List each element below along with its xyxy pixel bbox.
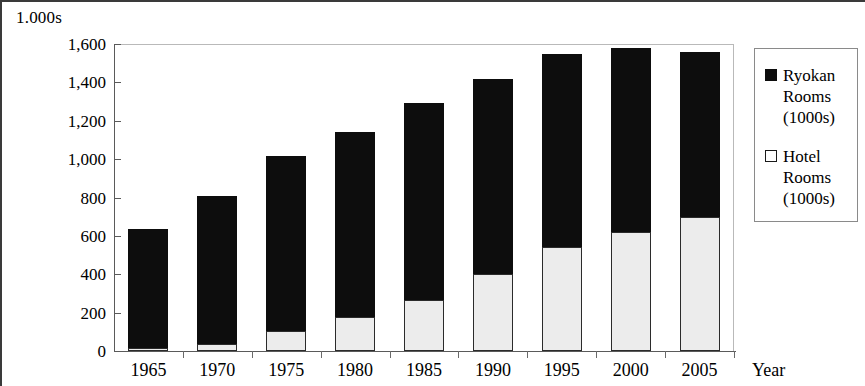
bar-stack	[542, 54, 582, 351]
legend-entry-label: Ryokan Rooms (1000s)	[783, 65, 857, 128]
y-axis-tick-mark	[114, 82, 121, 83]
y-axis-tick-labels: 02004006008001,0001,2001,4001,600	[2, 2, 106, 386]
bar-segment-ryokan-rooms	[680, 52, 720, 217]
bar-stack	[473, 79, 513, 351]
y-axis-tick-mark	[114, 121, 121, 122]
bar-stack	[611, 48, 651, 351]
x-axis-tick-label: 1970	[183, 360, 252, 380]
y-axis-tick-mark	[114, 236, 121, 237]
x-axis-tick-label: 1975	[252, 360, 321, 380]
chart-legend: Ryokan Rooms (1000s)Hotel Rooms (1000s)	[754, 48, 858, 222]
legend-entry: Ryokan Rooms (1000s)	[765, 65, 857, 128]
bar-segment-hotel-rooms	[197, 344, 237, 351]
y-axis-tick-label: 400	[14, 266, 106, 283]
x-axis-tick-label: 2000	[596, 360, 665, 380]
bar-segment-ryokan-rooms	[542, 54, 582, 248]
y-axis-tick-label: 1,000	[14, 151, 106, 168]
bar-segment-ryokan-rooms	[404, 103, 444, 300]
y-axis-tick-label: 1,400	[14, 74, 106, 91]
y-axis-tick-label: 1,600	[14, 36, 106, 53]
chart-figure: 1.000s 02004006008001,0001,2001,4001,600…	[0, 0, 865, 386]
bar-segment-ryokan-rooms	[128, 229, 168, 348]
x-axis-tick-mark	[596, 351, 597, 358]
x-axis-tick-mark	[321, 351, 322, 358]
x-axis-tick-mark	[665, 351, 666, 358]
bar-segment-ryokan-rooms	[335, 132, 375, 317]
bar-stack	[266, 156, 306, 351]
x-axis-title: Year	[752, 360, 785, 380]
bar-stack	[404, 103, 444, 351]
bar-stack	[335, 132, 375, 351]
x-axis-tick-label: 1980	[321, 360, 390, 380]
x-axis-tick-label: 1965	[114, 360, 183, 380]
x-axis-tick-label: 1990	[458, 360, 527, 380]
x-axis-tick-mark	[183, 351, 184, 358]
bar-segment-hotel-rooms	[266, 331, 306, 351]
y-axis-tick-mark	[114, 44, 121, 45]
bar-segment-hotel-rooms	[680, 217, 720, 351]
x-axis-tick-label: 1995	[527, 360, 596, 380]
bar-segment-hotel-rooms	[404, 300, 444, 351]
y-axis-tick-label: 600	[14, 228, 106, 245]
bar-stack	[680, 52, 720, 351]
bar-segment-ryokan-rooms	[611, 48, 651, 232]
y-axis-tick-label: 1,200	[14, 113, 106, 130]
y-axis-tick-mark	[114, 313, 121, 314]
x-axis-tick-mark	[527, 351, 528, 358]
bar-segment-hotel-rooms	[335, 317, 375, 351]
bar-stack	[128, 229, 168, 351]
y-axis-tick-label: 800	[14, 190, 106, 207]
x-axis-tick-mark	[252, 351, 253, 358]
bar-segment-hotel-rooms	[473, 274, 513, 351]
x-axis-baseline	[114, 351, 736, 352]
legend-entry-label: Hotel Rooms (1000s)	[783, 146, 857, 209]
bar-segment-hotel-rooms	[542, 247, 582, 351]
open-square-icon	[765, 150, 777, 162]
bar-segment-ryokan-rooms	[197, 196, 237, 345]
y-axis-tick-label: 0	[14, 343, 106, 360]
y-axis-tick-mark	[114, 198, 121, 199]
bar-segment-ryokan-rooms	[266, 156, 306, 331]
bar-segment-ryokan-rooms	[473, 79, 513, 275]
y-axis-tick-mark	[114, 274, 121, 275]
x-axis-tick-label: 1985	[390, 360, 459, 380]
bar-segment-hotel-rooms	[128, 348, 168, 351]
bar-stack	[197, 196, 237, 351]
x-axis-tick-mark	[734, 351, 735, 358]
bar-segment-hotel-rooms	[611, 232, 651, 351]
y-axis-tick-label: 200	[14, 305, 106, 322]
legend-entry: Hotel Rooms (1000s)	[765, 146, 857, 209]
filled-square-icon	[765, 69, 777, 81]
y-axis-tick-mark	[114, 159, 121, 160]
x-axis-tick-mark	[458, 351, 459, 358]
x-axis-tick-label: 2005	[665, 360, 734, 380]
x-axis-tick-mark	[390, 351, 391, 358]
